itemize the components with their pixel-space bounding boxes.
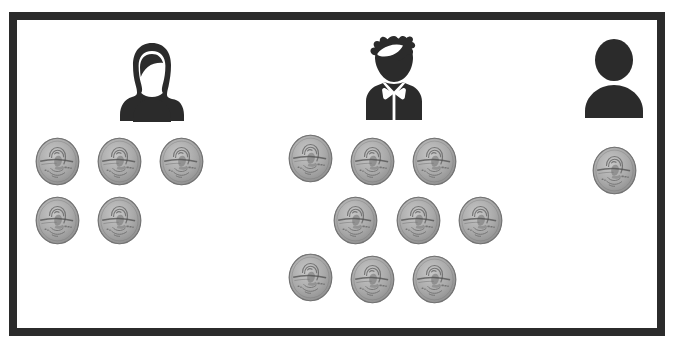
penny-coin-icon — [97, 137, 142, 186]
penny-coin-icon — [288, 253, 333, 302]
penny-coin-icon — [396, 196, 441, 245]
penny-coin-icon — [458, 196, 503, 245]
penny-coin-icon — [97, 196, 142, 245]
penny-coin-icon — [288, 134, 333, 183]
penny-coin-icon — [412, 255, 457, 304]
person-boy-icon — [358, 35, 430, 121]
penny-coin-icon — [592, 146, 637, 195]
penny-coin-icon — [350, 137, 395, 186]
penny-coin-icon — [350, 255, 395, 304]
penny-coin-icon — [412, 137, 457, 186]
scene-canvas — [0, 0, 673, 342]
person-female-icon — [119, 42, 185, 122]
person-generic-icon — [581, 38, 647, 118]
penny-coin-icon — [333, 196, 378, 245]
penny-coin-icon — [159, 137, 204, 186]
penny-coin-icon — [35, 196, 80, 245]
penny-coin-icon — [35, 137, 80, 186]
